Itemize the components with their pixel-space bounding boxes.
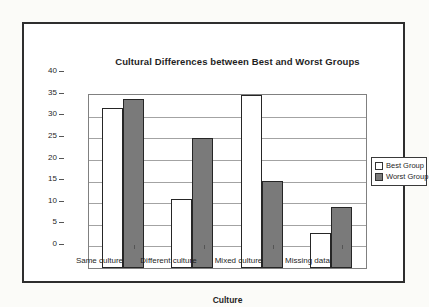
x-axis-title: Culture [88, 295, 367, 305]
bar-best-group-same-culture [102, 108, 123, 268]
bar-best-group-different-culture [171, 199, 192, 268]
bar-worst-group-missing-data [331, 207, 352, 268]
legend-label-best-group: Best Group [386, 162, 424, 170]
bar-worst-group-mixed-culture [262, 181, 283, 268]
legend-item-best-group: Best Group [375, 162, 423, 170]
bar-worst-group-different-culture [192, 138, 213, 268]
legend-label-worst-group: Worst Group [386, 173, 428, 181]
legend-item-worst-group: Worst Group [375, 173, 423, 181]
chart-title: Cultural Differences between Best and Wo… [48, 56, 427, 67]
legend: Best GroupWorst Group [371, 157, 427, 186]
bar-best-group-missing-data [310, 233, 331, 268]
legend-swatch-worst-group [375, 173, 383, 181]
legend-swatch-best-group [375, 162, 383, 170]
page: { "figure": { "background": "#ffffff", "… [0, 0, 429, 307]
bar-best-group-mixed-culture [241, 95, 262, 268]
plot-area [88, 94, 367, 269]
chart-figure: Cultural Differences between Best and Wo… [22, 22, 405, 283]
bar-worst-group-same-culture [123, 99, 144, 268]
